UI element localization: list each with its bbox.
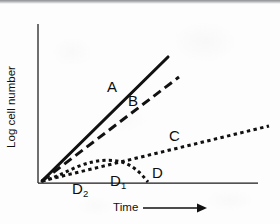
series-label-d2-base: D (72, 180, 83, 197)
y-axis-label: Log cell number (5, 66, 17, 148)
series-label-d1-subscript: 1 (121, 180, 126, 191)
growth-curve-plot (0, 0, 280, 224)
series-label-b: B (128, 92, 138, 109)
arrow-right-icon (143, 204, 207, 213)
y-axis-label-wrapper: Log cell number (2, 52, 20, 162)
curve-a (42, 57, 168, 181)
series-label-a: A (107, 78, 117, 95)
figure-container: Log cell number Time A B C D D1 D2 (0, 0, 280, 224)
series-label-d: D (152, 164, 163, 181)
series-label-d1-base: D (110, 172, 121, 189)
series-label-d2: D2 (72, 180, 88, 197)
series-label-d2-subscript: 2 (83, 188, 88, 199)
x-axis-label: Time (113, 201, 139, 213)
series-label-d1: D1 (110, 172, 126, 189)
series-label-c: C (169, 127, 180, 144)
